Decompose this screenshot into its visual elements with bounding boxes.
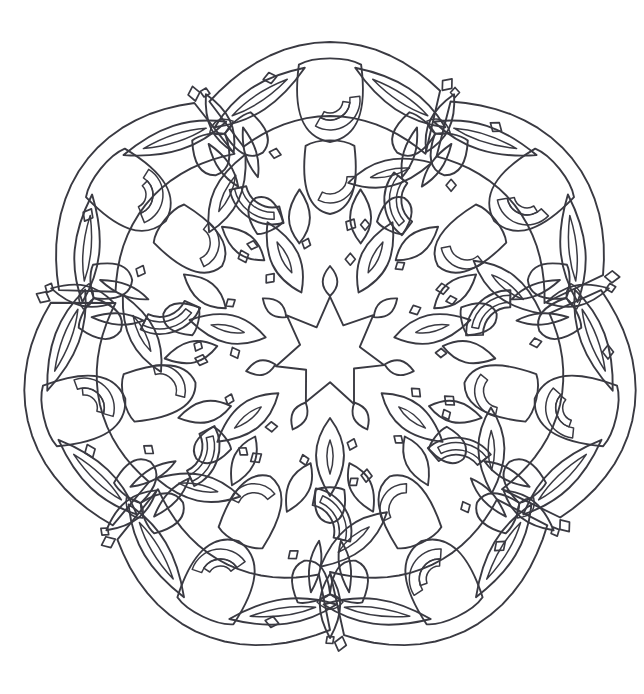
mandala-canvas [0,0,644,694]
mandala-illustration [0,0,644,694]
